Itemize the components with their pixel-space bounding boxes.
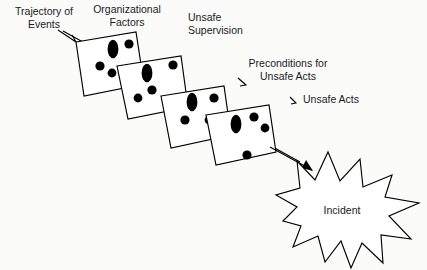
- incident-burst: Incident: [276, 152, 419, 268]
- preconditions-label-line2: Unsafe Acts: [260, 70, 316, 82]
- leader-line-unsafe-acts: [290, 97, 296, 104]
- unsafe-acts-label: Unsafe Acts: [303, 93, 359, 105]
- incident-label: Incident: [324, 204, 361, 216]
- layer-3-hole-b: [180, 115, 189, 124]
- organizational-label-line2: Factors: [109, 16, 144, 28]
- swiss-cheese-diagram: Trajectory of Events Organizational Fact…: [0, 0, 427, 270]
- layer-4-plane: [206, 105, 276, 165]
- leader-line-trajectory: [58, 30, 76, 42]
- layer-1-hole-large: [108, 40, 119, 58]
- organizational-label-line1: Organizational: [93, 3, 161, 15]
- layer-2-hole-c: [134, 94, 143, 103]
- preconditions-label-line1: Preconditions for: [249, 57, 328, 69]
- layer-unsafe-acts: [206, 105, 276, 165]
- label-unsafe-supervision: Unsafe Supervision: [188, 11, 243, 36]
- layer-1-hole-c: [108, 69, 117, 78]
- trajectory-label-line2: Events: [28, 18, 60, 30]
- label-preconditions-for-unsafe-acts: Preconditions for Unsafe Acts: [249, 57, 328, 82]
- leader-line-preconditions: [238, 78, 246, 86]
- layer-1-hole-b: [95, 61, 104, 70]
- supervision-label-line1: Unsafe: [188, 11, 221, 23]
- diagram-canvas: Trajectory of Events Organizational Fact…: [0, 0, 427, 270]
- layer-2-hole-a: [168, 60, 177, 69]
- supervision-label-line2: Supervision: [188, 24, 243, 36]
- label-organizational-factors: Organizational Factors: [93, 3, 161, 28]
- label-trajectory-of-events: Trajectory of Events: [15, 5, 73, 30]
- layer-4-hole-b: [261, 124, 270, 133]
- layer-3-hole-a: [209, 93, 218, 102]
- layer-3-hole-large: [187, 93, 198, 111]
- label-unsafe-acts: Unsafe Acts: [303, 93, 359, 105]
- layer-4-hole-large: [231, 115, 242, 133]
- trajectory-label-line1: Trajectory of: [15, 5, 73, 17]
- layer-1-hole-a: [124, 39, 133, 48]
- layer-2-hole-b: [147, 85, 156, 94]
- layer-4-hole-a: [249, 112, 258, 121]
- layer-2-hole-large: [142, 64, 153, 82]
- layer-4-hole-c: [242, 150, 251, 159]
